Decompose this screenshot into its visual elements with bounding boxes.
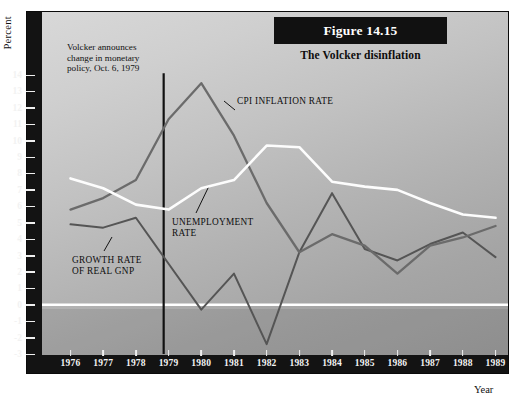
gnp-series-label-line-1: GROWTH RATE [72, 255, 142, 266]
figure-subtitle: The Volcker disinflation [274, 49, 447, 61]
volcker-annotation-line-3: policy, Oct. 6, 1979 [67, 63, 191, 74]
cpi-series-label: CPI INFLATION RATE [237, 96, 333, 107]
volcker-annotation-line-2: change in monetary [67, 53, 191, 64]
volcker-annotation-line-1: Volcker announces [67, 42, 191, 53]
unemployment-series-label-line-1: UNEMPLOYMENT [172, 217, 254, 228]
figure-number-box: Figure 14.15 [274, 17, 447, 44]
unemployment-series-label-line-2: RATE [172, 228, 254, 239]
cpi-label-leader [224, 101, 235, 110]
figure-root: Percent Year 14131211109876543210-1-2-3 … [0, 0, 525, 405]
unemployment-series-label: UNEMPLOYMENT RATE [172, 217, 254, 238]
gnp-label-leader [104, 237, 112, 251]
cpi-inflation-line [71, 83, 496, 273]
gnp-series-label: GROWTH RATE OF REAL GNP [72, 255, 142, 276]
volcker-annotation: Volcker announces change in monetary pol… [67, 42, 191, 74]
gnp-series-label-line-2: OF REAL GNP [72, 266, 142, 277]
figure-number-label: Figure 14.15 [274, 17, 447, 44]
